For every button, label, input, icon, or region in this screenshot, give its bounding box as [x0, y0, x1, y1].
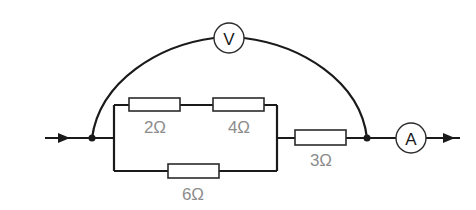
resistor-4-ohm: 4Ω: [213, 98, 264, 137]
left-junction-dot: [89, 135, 96, 142]
ammeter-label: A: [405, 130, 417, 149]
resistor-6-ohm: 6Ω: [168, 164, 219, 204]
resistor-4-ohm-label: 4Ω: [228, 118, 250, 137]
output-arrow-icon: [443, 133, 455, 143]
input-arrow-icon: [58, 133, 70, 143]
right-junction-dot: [364, 135, 371, 142]
resistor-3-ohm: 3Ω: [295, 130, 346, 170]
circuit-diagram: 2Ω 4Ω 6Ω 3Ω V A: [0, 0, 476, 210]
resistor-3-ohm-label: 3Ω: [310, 151, 332, 170]
voltmeter-right-lead: [244, 38, 367, 138]
voltmeter: V: [214, 23, 244, 53]
ammeter: A: [396, 123, 426, 153]
resistor-2-ohm-label: 2Ω: [144, 118, 166, 137]
resistor-2-ohm: 2Ω: [129, 98, 180, 137]
resistor-6-ohm-label: 6Ω: [182, 185, 204, 204]
voltmeter-label: V: [223, 30, 235, 49]
